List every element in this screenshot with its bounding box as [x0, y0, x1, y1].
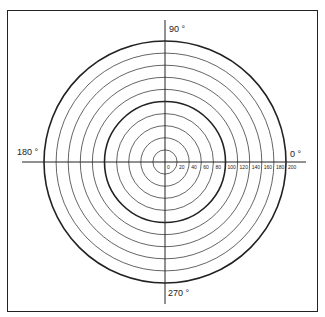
radial-label: 160 — [264, 164, 273, 170]
polar-grid: 020406080100120140160180200 — [0, 0, 325, 317]
angle-label-270: 270 ° — [168, 288, 189, 298]
radial-label: 80 — [215, 164, 221, 170]
radial-label: 180 — [276, 164, 285, 170]
angle-label-90: 90 ° — [169, 24, 185, 34]
radial-label: 100 — [228, 164, 237, 170]
angle-label-0: 0 ° — [290, 149, 301, 159]
radial-label: 200 — [288, 164, 297, 170]
radial-label: 20 — [179, 164, 185, 170]
angle-label-180: 180 ° — [17, 147, 38, 157]
radial-label: 120 — [240, 164, 249, 170]
radial-scale-labels: 020406080100120140160180200 — [167, 164, 297, 170]
radial-label: 60 — [203, 164, 209, 170]
radial-label: 40 — [191, 164, 197, 170]
radial-label: 140 — [252, 164, 261, 170]
radial-label: 0 — [167, 164, 170, 170]
